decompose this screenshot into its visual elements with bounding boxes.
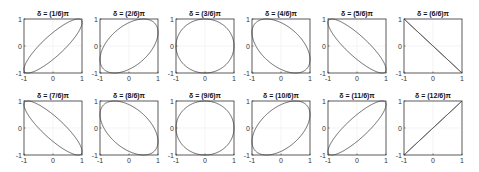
subplot-title: δ = (1/6)π xyxy=(37,10,70,18)
y-tick-label: 1 xyxy=(246,16,250,23)
y-tick-label: 1 xyxy=(398,98,402,105)
x-tick-label: 1 xyxy=(308,157,312,164)
subplot-8: -101-101δ = (8/6)π xyxy=(92,92,160,164)
x-tick-label: 0 xyxy=(51,75,55,82)
x-tick-label: 1 xyxy=(384,157,388,164)
x-tick-label: 0 xyxy=(127,157,131,164)
subplot-6: -101-101δ = (6/6)π xyxy=(396,10,464,82)
subplot-title: δ = (8/6)π xyxy=(113,92,146,100)
y-tick-label: 0 xyxy=(170,125,174,132)
y-tick-label: 0 xyxy=(322,125,326,132)
y-tick-label: 0 xyxy=(398,125,402,132)
y-tick-label: 1 xyxy=(398,16,402,23)
y-tick-label: 1 xyxy=(18,16,22,23)
y-tick-label: -1 xyxy=(396,152,402,159)
y-tick-label: 0 xyxy=(170,43,174,50)
x-tick-label: 1 xyxy=(80,75,84,82)
y-tick-label: 0 xyxy=(94,43,98,50)
x-tick-label: 1 xyxy=(80,157,84,164)
x-tick-label: 1 xyxy=(384,75,388,82)
x-tick-label: 1 xyxy=(156,75,160,82)
y-tick-label: 1 xyxy=(170,98,174,105)
x-tick-label: 0 xyxy=(127,75,131,82)
x-tick-label: 1 xyxy=(156,157,160,164)
subplot-1: -101-101δ = (1/6)π xyxy=(16,10,84,82)
subplot-4: -101-101δ = (4/6)π xyxy=(244,10,312,82)
subplot-11: -101-101δ = (11/6)π xyxy=(320,92,388,164)
subplot-title: δ = (4/6)π xyxy=(265,10,298,18)
x-tick-label: 0 xyxy=(431,157,435,164)
y-tick-label: -1 xyxy=(320,70,326,77)
y-tick-label: 0 xyxy=(94,125,98,132)
subplot-title: δ = (7/6)π xyxy=(37,92,70,100)
y-tick-label: 1 xyxy=(18,98,22,105)
subplot-title: δ = (2/6)π xyxy=(113,10,146,18)
y-tick-label: 0 xyxy=(398,43,402,50)
y-tick-label: -1 xyxy=(244,152,250,159)
y-tick-label: -1 xyxy=(168,152,174,159)
x-tick-label: 1 xyxy=(460,75,464,82)
y-tick-label: 1 xyxy=(246,98,250,105)
subplot-12: -101-101δ = (12/6)π xyxy=(396,92,464,164)
subplot-9: -101-101δ = (9/6)π xyxy=(168,92,236,164)
y-tick-label: 0 xyxy=(18,43,22,50)
subplot-title: δ = (9/6)π xyxy=(189,92,222,100)
subplot-5: -101-101δ = (5/6)π xyxy=(320,10,388,82)
y-tick-label: 0 xyxy=(322,43,326,50)
lissajous-figure-grid: -101-101δ = (1/6)π-101-101δ = (2/6)π-101… xyxy=(0,0,479,172)
subplot-title: δ = (11/6)π xyxy=(339,92,375,100)
y-tick-label: 0 xyxy=(246,125,250,132)
subplot-7: -101-101δ = (7/6)π xyxy=(16,92,84,164)
y-tick-label: -1 xyxy=(244,70,250,77)
y-tick-label: -1 xyxy=(16,70,22,77)
subplot-title: δ = (10/6)π xyxy=(263,92,300,100)
y-tick-label: -1 xyxy=(92,70,98,77)
x-tick-label: 1 xyxy=(460,157,464,164)
subplot-title: δ = (6/6)π xyxy=(417,10,450,18)
y-tick-label: 1 xyxy=(170,16,174,23)
y-tick-label: 1 xyxy=(94,16,98,23)
y-tick-label: 1 xyxy=(322,16,326,23)
y-tick-label: 1 xyxy=(322,98,326,105)
subplot-10: -101-101δ = (10/6)π xyxy=(244,92,312,164)
x-tick-label: 1 xyxy=(232,157,236,164)
x-tick-label: 0 xyxy=(355,75,359,82)
y-tick-label: -1 xyxy=(396,70,402,77)
y-tick-label: 0 xyxy=(18,125,22,132)
subplot-title: δ = (5/6)π xyxy=(341,10,374,18)
x-tick-label: 0 xyxy=(203,75,207,82)
y-tick-label: 0 xyxy=(246,43,250,50)
subplot-3: -101-101δ = (3/6)π xyxy=(168,10,236,82)
subplot-2: -101-101δ = (2/6)π xyxy=(92,10,160,82)
x-tick-label: 0 xyxy=(279,75,283,82)
x-tick-label: 1 xyxy=(232,75,236,82)
x-tick-label: 0 xyxy=(203,157,207,164)
x-tick-label: 1 xyxy=(308,75,312,82)
x-tick-label: 0 xyxy=(355,157,359,164)
y-tick-label: -1 xyxy=(320,152,326,159)
subplot-title: δ = (12/6)π xyxy=(415,92,452,100)
x-tick-label: 0 xyxy=(279,157,283,164)
y-tick-label: -1 xyxy=(168,70,174,77)
y-tick-label: -1 xyxy=(92,152,98,159)
y-tick-label: -1 xyxy=(16,152,22,159)
y-tick-label: 1 xyxy=(94,98,98,105)
x-tick-label: 0 xyxy=(431,75,435,82)
x-tick-label: 0 xyxy=(51,157,55,164)
subplot-title: δ = (3/6)π xyxy=(189,10,222,18)
